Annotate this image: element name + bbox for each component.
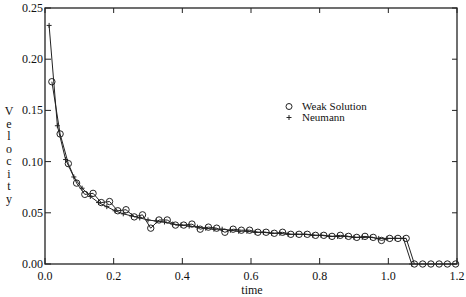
y-tick-label: 0.20 [22,52,43,66]
plus-marker [47,23,52,28]
plot-border [45,8,457,264]
x-tick-label: 1.0 [381,269,396,283]
plus-marker [319,233,324,238]
plus-marker [401,236,406,241]
x-axis: 0.00.20.40.60.81.01.2 [38,8,465,283]
legend-plus-icon [287,115,292,120]
x-tick-label: 1.2 [450,269,465,283]
legend-circle-icon [286,104,292,110]
x-tick-label: 0.0 [38,269,53,283]
y-tick-label: 0.00 [22,257,43,271]
plus-marker [286,232,291,237]
legend-label: Neumann [302,111,345,123]
plus-marker [343,234,348,239]
x-tick-label: 0.2 [106,269,121,283]
data-series [47,23,459,267]
plus-marker [294,232,299,237]
velocity-chart: 0.00.20.40.60.81.01.2 0.000.050.100.150.… [0,0,466,297]
x-axis-title: time [241,283,262,297]
plus-marker [310,233,315,238]
x-tick-label: 0.6 [244,269,259,283]
plus-marker [220,227,225,232]
plus-marker [368,235,373,240]
plus-marker [178,223,183,228]
y-tick-label: 0.25 [22,1,43,15]
plot-frame [45,8,457,264]
y-axis: 0.000.050.100.150.200.25 [22,1,457,271]
y-tick-label: 0.10 [22,155,43,169]
plus-marker [302,232,307,237]
y-axis-title-letter: y [6,192,12,206]
x-tick-label: 0.8 [312,269,327,283]
plus-marker [393,236,398,241]
y-axis-title: Velocity [5,104,14,206]
plus-marker [352,235,357,240]
y-tick-label: 0.15 [22,103,43,117]
y-tick-label: 0.05 [22,206,43,220]
plus-marker [121,211,126,216]
x-tick-label: 0.4 [175,269,190,283]
plus-marker [269,231,274,236]
plus-marker [384,236,389,241]
plus-marker [327,234,332,239]
plus-marker [261,230,266,235]
plus-marker [253,230,258,235]
legend: Weak SolutionNeumann [286,100,367,123]
